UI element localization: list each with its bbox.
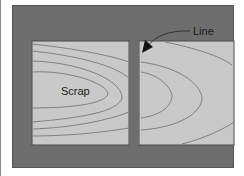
- line-label: Line: [193, 25, 214, 37]
- line-board: [139, 41, 234, 145]
- scrap-label: Scrap: [61, 85, 90, 97]
- kerf-gap: [129, 41, 139, 145]
